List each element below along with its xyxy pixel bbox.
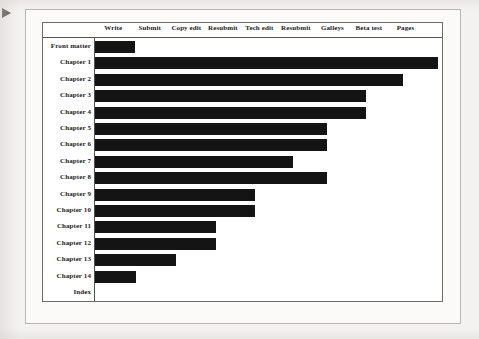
column-header-tech-edit-5: Tech edit	[245, 24, 273, 32]
row-label-chapter-3: Chapter 3	[43, 91, 91, 99]
row-label-chapter-10: Chapter 10	[43, 206, 91, 214]
progress-bar-chapter-5	[95, 123, 327, 135]
chart-row: Chapter 14	[43, 269, 442, 286]
row-label-chapter-8: Chapter 8	[43, 173, 91, 181]
row-label-chapter-2: Chapter 2	[43, 75, 91, 83]
row-label-chapter-14: Chapter 14	[43, 272, 91, 280]
progress-bar-chapter-7	[95, 156, 293, 168]
progress-bar-chapter-9	[95, 189, 255, 201]
column-header-galleys-7: Galleys	[321, 24, 344, 32]
row-label-chapter-5: Chapter 5	[43, 124, 91, 132]
chart-row: Chapter 13	[43, 252, 442, 269]
progress-bar-chapter-3	[95, 90, 366, 102]
column-header-resubmit-6: Resubmit	[281, 24, 311, 32]
chart-row: Chapter 5	[43, 121, 442, 138]
progress-bar-chapter-11	[95, 221, 216, 233]
row-label-chapter-12: Chapter 12	[43, 239, 91, 247]
column-header-copy-edit-3: Copy edit	[171, 24, 201, 32]
progress-bar-chapter-10	[95, 205, 255, 217]
chart-row: Chapter 11	[43, 219, 442, 236]
gantt-chart: WriteSubmitCopy editResubmitTech editRes…	[42, 22, 443, 302]
row-label-chapter-13: Chapter 13	[43, 255, 91, 263]
progress-bar-front-matter	[95, 41, 135, 53]
chart-row: Chapter 2	[43, 72, 442, 89]
chart-row: Chapter 7	[43, 154, 442, 171]
progress-bar-chapter-8	[95, 172, 327, 184]
chart-row: Front matter	[43, 39, 442, 56]
right-arrow-marker-icon	[2, 8, 11, 18]
chart-row: Chapter 6	[43, 137, 442, 154]
chart-row: Chapter 10	[43, 203, 442, 220]
progress-bar-chapter-2	[95, 74, 403, 86]
chart-row: Chapter 3	[43, 88, 442, 105]
column-header-submit-2: Submit	[139, 24, 161, 32]
row-label-front-matter: Front matter	[43, 42, 91, 50]
row-label-chapter-1: Chapter 1	[43, 58, 91, 66]
chart-row: Chapter 1	[43, 55, 442, 72]
chart-row: Index	[43, 285, 442, 302]
figure-page: WriteSubmitCopy editResubmitTech editRes…	[0, 0, 479, 339]
progress-bar-chapter-4	[95, 107, 366, 119]
row-label-chapter-6: Chapter 6	[43, 140, 91, 148]
progress-bar-chapter-13	[95, 254, 176, 266]
row-label-chapter-7: Chapter 7	[43, 157, 91, 165]
column-header-write-1: Write	[104, 24, 122, 32]
column-header-beta-test-8: Beta test	[356, 24, 383, 32]
row-label-chapter-4: Chapter 4	[43, 108, 91, 116]
chart-row: Chapter 4	[43, 105, 442, 122]
progress-bar-chapter-6	[95, 139, 327, 151]
row-label-chapter-11: Chapter 11	[43, 222, 91, 230]
row-label-index: Index	[43, 288, 91, 296]
chart-row: Chapter 12	[43, 236, 442, 253]
chart-row: Chapter 8	[43, 170, 442, 187]
progress-bar-chapter-14	[95, 271, 136, 283]
progress-bar-chapter-12	[95, 238, 216, 250]
column-header-resubmit-4: Resubmit	[208, 24, 238, 32]
column-header-pages-9: Pages	[397, 24, 415, 32]
progress-bar-chapter-1	[95, 57, 438, 69]
row-label-chapter-9: Chapter 9	[43, 190, 91, 198]
chart-row: Chapter 9	[43, 187, 442, 204]
